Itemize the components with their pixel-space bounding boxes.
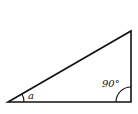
angle-a-label: a [28,90,34,101]
acute-angle-arc [22,94,24,102]
right-triangle [8,31,131,102]
triangle-diagram: a 90° [0,0,138,114]
right-angle-label: 90° [102,78,120,89]
right-angle-arc [116,87,131,102]
